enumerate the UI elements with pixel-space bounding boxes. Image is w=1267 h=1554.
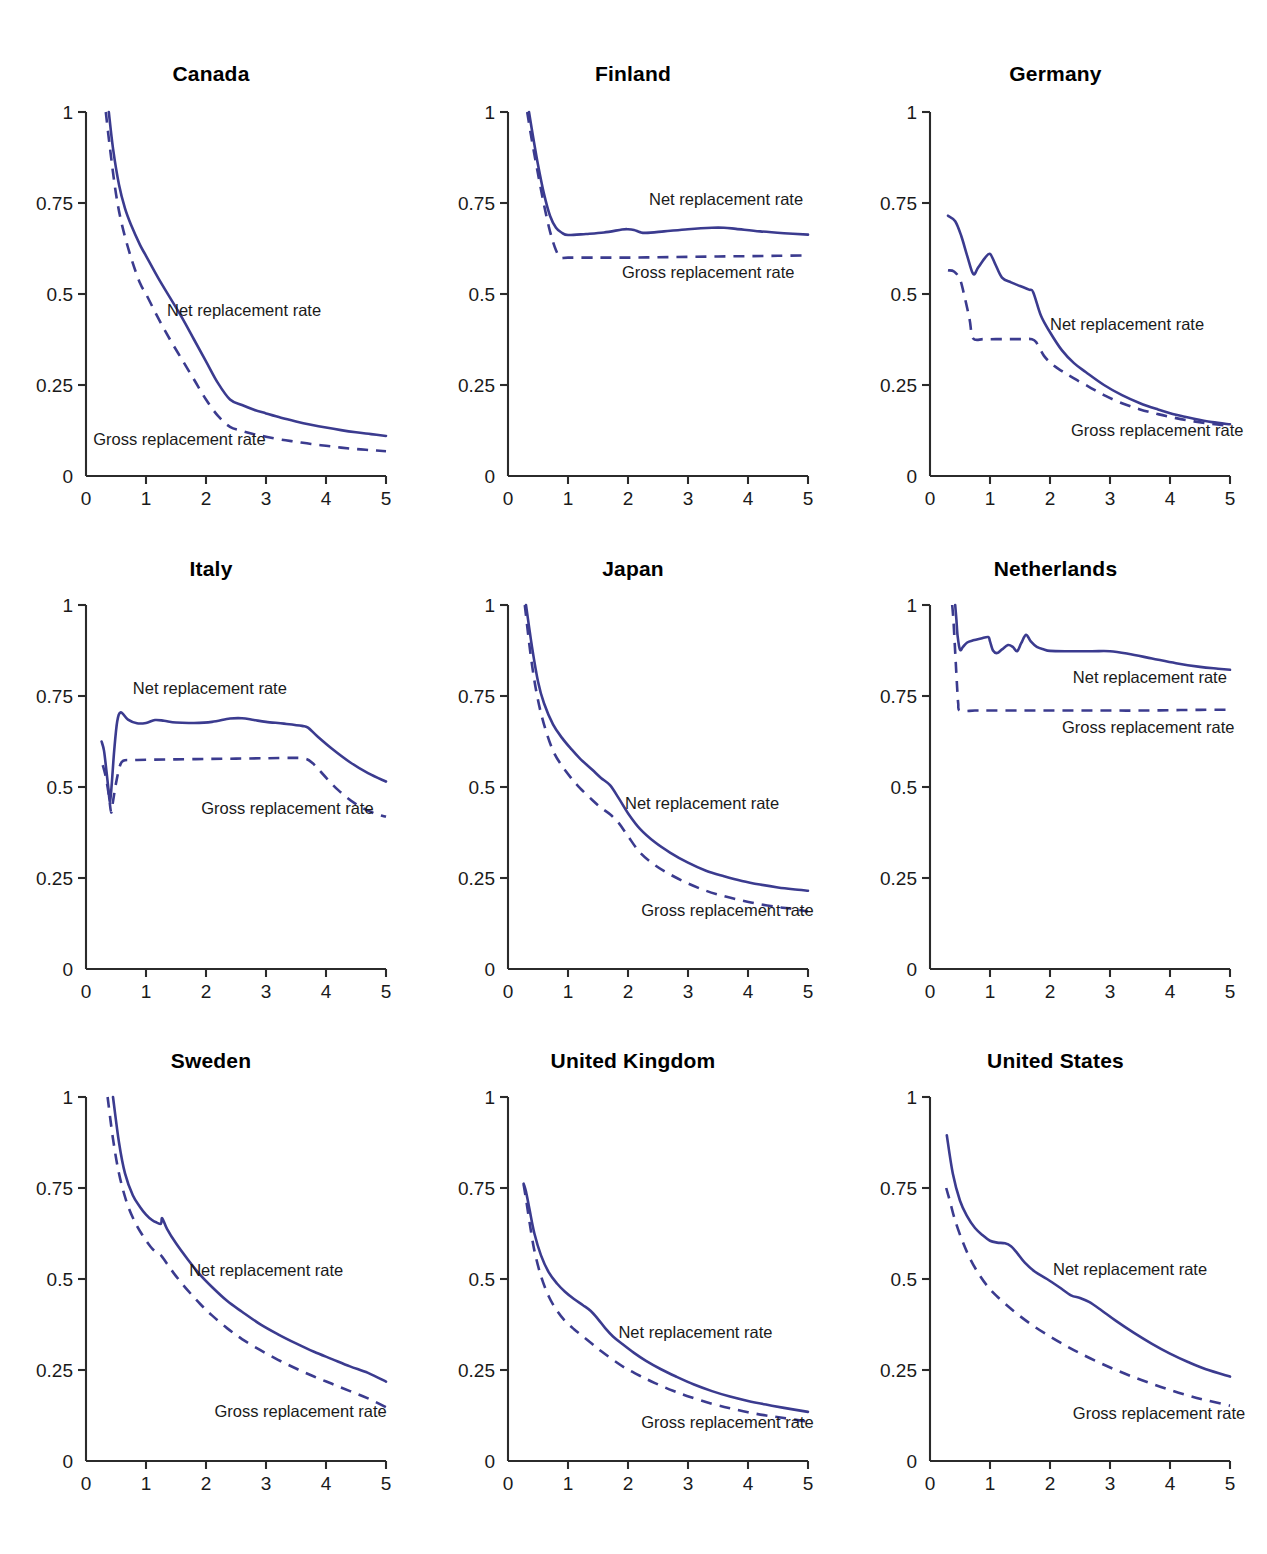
x-tick-label: 0 — [503, 981, 514, 1002]
x-tick-label: 4 — [1165, 1473, 1176, 1494]
x-tick-label: 3 — [683, 1473, 694, 1494]
net-replacement-rate-line — [113, 1097, 386, 1382]
y-tick-label: 0.25 — [36, 868, 73, 889]
chart-panel-united-states: United States00.250.50.751012345Net repl… — [844, 1005, 1267, 1554]
net-series-label: Net replacement rate — [133, 679, 287, 697]
plot-area: 00.250.50.751012345Net replacement rateG… — [422, 0, 844, 520]
x-tick-label: 0 — [81, 488, 92, 509]
y-tick-label: 0.75 — [36, 686, 73, 707]
y-tick-label: 1 — [484, 1087, 495, 1108]
plot-area: 00.250.50.751012345Net replacement rateG… — [422, 515, 844, 1035]
x-tick-label: 3 — [683, 488, 694, 509]
gross-series-label: Gross replacement rate — [641, 901, 813, 919]
gross-replacement-rate-line — [524, 1184, 808, 1421]
x-tick-label: 0 — [925, 488, 936, 509]
y-tick-label: 0.25 — [458, 1360, 495, 1381]
y-tick-label: 0.25 — [458, 375, 495, 396]
x-tick-label: 0 — [81, 1473, 92, 1494]
x-tick-label: 3 — [1105, 981, 1116, 1002]
net-series-label: Net replacement rate — [1053, 1260, 1207, 1278]
y-tick-label: 0 — [484, 466, 495, 487]
x-tick-label: 0 — [503, 488, 514, 509]
plot-area: 00.250.50.751012345Net replacement rateG… — [844, 1005, 1266, 1525]
y-tick-label: 0 — [62, 1451, 73, 1472]
y-tick-label: 0.75 — [36, 193, 73, 214]
y-tick-label: 0.5 — [469, 1269, 495, 1290]
y-tick-label: 0.5 — [891, 284, 917, 305]
x-tick-label: 5 — [381, 981, 392, 1002]
net-replacement-rate-line — [529, 112, 808, 235]
x-tick-label: 4 — [1165, 981, 1176, 1002]
y-tick-label: 0.5 — [469, 284, 495, 305]
y-tick-label: 1 — [484, 102, 495, 123]
net-replacement-rate-line — [524, 1184, 808, 1412]
plot-area: 00.250.50.751012345Net replacement rateG… — [422, 1005, 844, 1525]
gross-replacement-rate-line — [952, 605, 1230, 711]
net-replacement-rate-line — [102, 712, 386, 801]
gross-series-label: Gross replacement rate — [201, 799, 373, 817]
x-tick-label: 5 — [1225, 1473, 1236, 1494]
x-tick-label: 1 — [985, 981, 996, 1002]
x-tick-label: 2 — [623, 488, 634, 509]
net-series-label: Net replacement rate — [189, 1261, 343, 1279]
y-tick-label: 0.75 — [458, 1178, 495, 1199]
net-series-label: Net replacement rate — [1050, 315, 1204, 333]
x-tick-label: 3 — [1105, 1473, 1116, 1494]
plot-area: 00.250.50.751012345Net replacement rateG… — [0, 515, 422, 1035]
chart-panel-italy: Italy00.250.50.751012345Net replacement … — [0, 515, 422, 1005]
y-tick-label: 0.25 — [458, 868, 495, 889]
x-tick-label: 4 — [743, 1473, 754, 1494]
y-tick-label: 0.25 — [36, 1360, 73, 1381]
x-tick-label: 1 — [141, 1473, 152, 1494]
x-tick-label: 3 — [261, 1473, 272, 1494]
net-series-label: Net replacement rate — [625, 794, 779, 812]
gross-series-label: Gross replacement rate — [622, 263, 794, 281]
plot-area: 00.250.50.751012345Net replacement rateG… — [0, 0, 422, 520]
gross-replacement-rate-line — [108, 1097, 386, 1407]
y-tick-label: 0.5 — [47, 284, 73, 305]
gross-series-label: Gross replacement rate — [1073, 1404, 1245, 1422]
x-tick-label: 5 — [1225, 981, 1236, 1002]
x-tick-label: 5 — [381, 488, 392, 509]
y-tick-label: 0 — [906, 466, 917, 487]
x-tick-label: 1 — [563, 488, 574, 509]
y-tick-label: 0 — [62, 959, 73, 980]
x-tick-label: 1 — [563, 1473, 574, 1494]
y-tick-label: 1 — [62, 1087, 73, 1108]
y-tick-label: 0.25 — [880, 1360, 917, 1381]
y-tick-label: 0.5 — [891, 1269, 917, 1290]
net-replacement-rate-line — [109, 112, 386, 436]
x-tick-label: 3 — [1105, 488, 1116, 509]
y-tick-label: 0 — [906, 1451, 917, 1472]
x-tick-label: 0 — [81, 981, 92, 1002]
replacement-rate-figure: Canada00.250.50.751012345Net replacement… — [0, 0, 1267, 1554]
y-tick-label: 0.75 — [458, 686, 495, 707]
x-tick-label: 1 — [563, 981, 574, 1002]
y-tick-label: 0.5 — [891, 777, 917, 798]
y-tick-label: 0.5 — [47, 1269, 73, 1290]
x-tick-label: 5 — [803, 981, 814, 1002]
y-tick-label: 1 — [484, 595, 495, 616]
net-series-label: Net replacement rate — [649, 190, 803, 208]
net-series-label: Net replacement rate — [618, 1323, 772, 1341]
y-tick-label: 0.5 — [47, 777, 73, 798]
x-tick-label: 1 — [985, 1473, 996, 1494]
gross-replacement-rate-line — [948, 270, 1230, 425]
net-replacement-rate-line — [526, 605, 808, 891]
x-tick-label: 0 — [503, 1473, 514, 1494]
x-tick-label: 2 — [623, 981, 634, 1002]
x-tick-label: 4 — [321, 1473, 332, 1494]
x-tick-label: 5 — [803, 1473, 814, 1494]
gross-replacement-rate-line — [946, 1188, 1230, 1406]
x-tick-label: 2 — [1045, 981, 1056, 1002]
gross-series-label: Gross replacement rate — [1062, 718, 1234, 736]
y-tick-label: 0 — [484, 1451, 495, 1472]
x-tick-label: 5 — [803, 488, 814, 509]
x-tick-label: 2 — [201, 981, 212, 1002]
y-tick-label: 0.25 — [36, 375, 73, 396]
chart-panel-netherlands: Netherlands00.250.50.751012345Net replac… — [844, 515, 1267, 1005]
gross-series-label: Gross replacement rate — [93, 430, 265, 448]
net-replacement-rate-line — [947, 1135, 1230, 1376]
x-tick-label: 1 — [141, 981, 152, 1002]
chart-panel-japan: Japan00.250.50.751012345Net replacement … — [422, 515, 844, 1005]
